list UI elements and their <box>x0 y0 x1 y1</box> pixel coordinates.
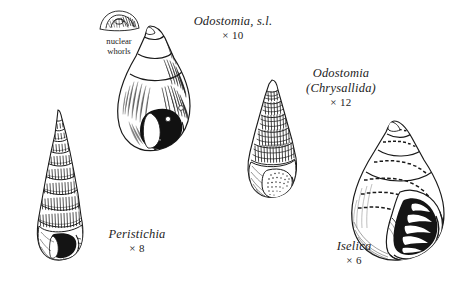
label-iselica: Iselica × 6 <box>305 239 403 267</box>
label-odostomia-sl-taxon: Odostomia, s.l. <box>175 14 291 29</box>
label-peristichia: Peristichia × 8 <box>82 227 192 255</box>
label-peristichia-magnification: × 8 <box>82 242 192 255</box>
label-odostomia-chrysallida-subgenus: (Chrysallida) <box>283 81 399 96</box>
label-iselica-magnification: × 6 <box>305 254 403 267</box>
figure-odostomia-sl <box>108 24 208 156</box>
label-odostomia-sl: Odostomia, s.l. × 10 <box>175 14 291 42</box>
shell-illustration-plate: nuclear whorls <box>0 0 463 289</box>
label-odostomia-sl-magnification: × 10 <box>175 29 291 42</box>
label-iselica-taxon: Iselica <box>305 239 403 254</box>
label-odostomia-chrysallida-magnification: × 12 <box>283 96 399 109</box>
label-odostomia-chrysallida-taxon: Odostomia <box>283 66 399 81</box>
label-odostomia-chrysallida: Odostomia (Chrysallida) × 12 <box>283 66 399 108</box>
label-peristichia-taxon: Peristichia <box>82 227 192 242</box>
